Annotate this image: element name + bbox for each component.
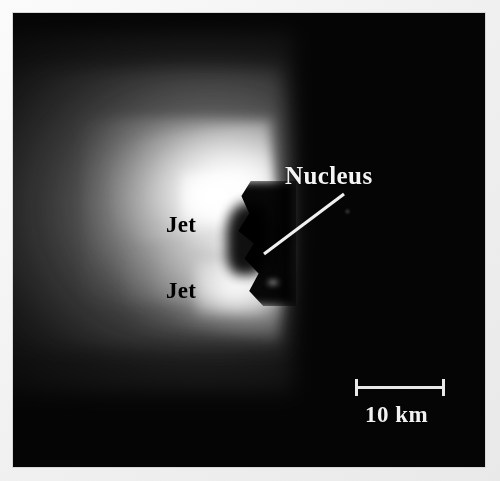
scale-bar-line (356, 386, 444, 389)
jet-label-lower: Jet (166, 279, 196, 302)
nucleus-silhouette-inner (227, 203, 267, 275)
scale-bar (354, 376, 446, 400)
scale-bar-tick-right (442, 379, 445, 396)
comet-nucleus-figure: Nucleus Jet Jet 10 km (0, 0, 500, 481)
nucleus-label: Nucleus (285, 163, 373, 188)
background-speck (345, 209, 350, 214)
astronomical-image-plate: Nucleus Jet Jet 10 km (13, 13, 485, 467)
nucleus-bright-knot (265, 277, 281, 288)
jet-label-upper: Jet (166, 213, 196, 236)
scale-bar-label: 10 km (365, 403, 428, 426)
